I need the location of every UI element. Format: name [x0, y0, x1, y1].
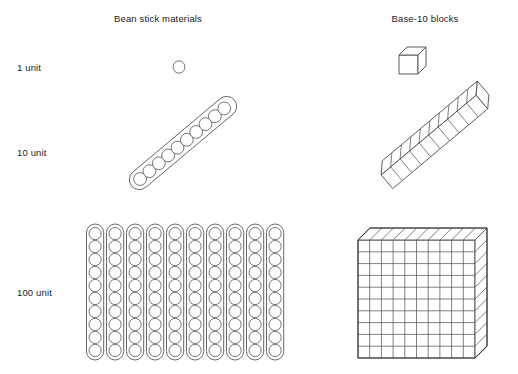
column-header-base-10-blocks: Base-10 blocks [325, 13, 518, 24]
rod-of-ten-icon [378, 86, 500, 190]
column-header-bean-stick-materials: Bean stick materials [58, 13, 258, 24]
row-label-10-unit: 10 unit [17, 147, 47, 158]
place-value-figure: Bean stick materials Base-10 blocks 1 un… [0, 0, 518, 374]
row-label-100-unit: 100 unit [17, 287, 52, 298]
single-bean-circle-icon [168, 56, 190, 78]
row-label-1-unit: 1 unit [17, 62, 41, 73]
hundred-flat-icon [352, 222, 488, 364]
unit-cube-icon [396, 44, 432, 80]
bean-stick-of-ten-icon [126, 96, 240, 190]
ten-bean-sticks-array-icon [84, 220, 290, 364]
